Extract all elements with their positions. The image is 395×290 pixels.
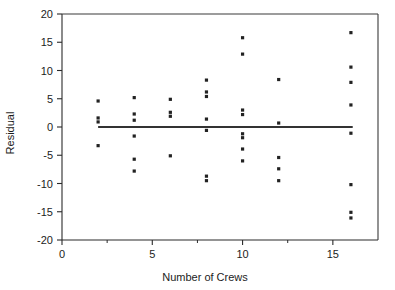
y-tick-label: 10 — [41, 65, 53, 77]
data-point — [277, 167, 280, 170]
residual-plot-figure: 20151050-5-10-15-20 051015 Residual Numb… — [0, 0, 395, 290]
axis-ticks — [57, 14, 333, 245]
data-point — [349, 216, 352, 219]
data-point — [205, 117, 208, 120]
data-points — [97, 31, 353, 220]
x-tick-label: 10 — [236, 248, 248, 260]
data-point — [349, 103, 352, 106]
y-tick-label: -20 — [37, 234, 53, 246]
data-point — [241, 159, 244, 162]
x-tick-label: 5 — [149, 248, 155, 260]
data-point — [133, 112, 136, 115]
y-tick-label: 15 — [41, 36, 53, 48]
data-point — [349, 31, 352, 34]
y-tick-label: 0 — [47, 121, 53, 133]
data-point — [241, 36, 244, 39]
y-axis-title: Residual — [4, 112, 16, 155]
y-tick-label: -15 — [37, 206, 53, 218]
data-point — [349, 132, 352, 135]
data-point — [241, 132, 244, 135]
data-point — [241, 108, 244, 111]
x-axis-title: Number of Crews — [162, 271, 248, 283]
data-point — [133, 158, 136, 161]
data-point — [205, 129, 208, 132]
y-tick-label: 20 — [41, 8, 53, 20]
data-point — [133, 119, 136, 122]
data-point — [349, 211, 352, 214]
data-point — [97, 116, 100, 119]
data-point — [205, 95, 208, 98]
data-point — [205, 179, 208, 182]
data-point — [169, 111, 172, 114]
data-point — [349, 183, 352, 186]
data-point — [205, 175, 208, 178]
data-point — [205, 79, 208, 82]
data-point — [241, 147, 244, 150]
x-axis-tick-labels: 051015 — [59, 248, 339, 260]
data-point — [241, 53, 244, 56]
data-point — [97, 99, 100, 102]
data-point — [97, 144, 100, 147]
y-tick-label: -10 — [37, 178, 53, 190]
x-tick-label: 0 — [59, 248, 65, 260]
data-point — [169, 98, 172, 101]
x-tick-label: 15 — [327, 248, 339, 260]
data-point — [241, 136, 244, 139]
data-point — [205, 90, 208, 93]
y-tick-label: -5 — [43, 149, 53, 161]
y-axis-tick-labels: 20151050-5-10-15-20 — [37, 8, 53, 246]
data-point — [133, 96, 136, 99]
data-point — [349, 81, 352, 84]
data-point — [241, 113, 244, 116]
data-point — [277, 78, 280, 81]
data-point — [277, 156, 280, 159]
data-point — [277, 179, 280, 182]
data-point — [169, 115, 172, 118]
y-tick-label: 5 — [47, 93, 53, 105]
data-point — [97, 120, 100, 123]
data-point — [133, 134, 136, 137]
data-point — [349, 66, 352, 69]
data-point — [169, 154, 172, 157]
data-point — [277, 121, 280, 124]
data-point — [133, 169, 136, 172]
scatter-plot-canvas: 20151050-5-10-15-20 051015 Residual Numb… — [0, 0, 395, 290]
